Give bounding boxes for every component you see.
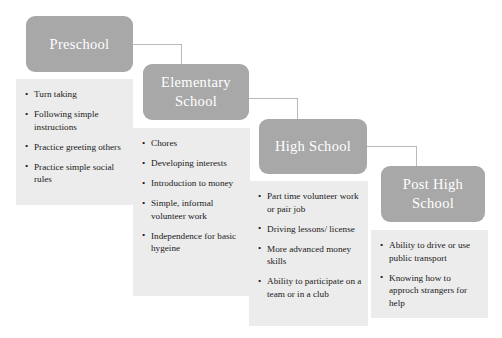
skill-text: Independence for basic hygeine (151, 231, 236, 254)
stage-body-high-school: •Part time volunteer work or pair job •D… (249, 181, 368, 326)
bullet-icon: • (25, 160, 28, 173)
skill-text: Introduction to money (151, 178, 233, 188)
stage-header-preschool[interactable]: Preschool (26, 16, 133, 72)
list-item: •Knowing how to approch strangers for he… (380, 272, 482, 310)
stage-header-high-school[interactable]: High School (259, 119, 367, 174)
stage-title-preschool: Preschool (50, 35, 110, 54)
stage-body-elementary-school: •Chores •Developing interests •Introduct… (133, 128, 250, 296)
connector-elementary-to-high-horizontal (248, 98, 298, 99)
skill-text: Practice simple social rules (34, 162, 114, 185)
stage-title-elementary-school: Elementary School (149, 73, 243, 110)
skill-text: Part time volunteer work or pair job (267, 191, 359, 214)
bullet-icon: • (258, 275, 261, 288)
list-item: •Introduction to money (142, 177, 244, 190)
bullet-icon: • (258, 242, 261, 255)
connector-high-to-post-high-horizontal (367, 146, 417, 147)
bullet-icon: • (142, 157, 145, 170)
skill-text: Simple, informal volunteer work (151, 198, 213, 221)
skill-text: Developing interests (151, 158, 227, 168)
connector-high-to-post-high-vertical (416, 146, 417, 166)
list-item: •Driving lessons/ license (258, 223, 362, 236)
skill-list-preschool: •Turn taking •Following simple instructi… (25, 88, 127, 186)
skill-list-high-school: •Part time volunteer work or pair job •D… (258, 190, 362, 300)
list-item: •Practice simple social rules (25, 161, 127, 186)
skill-text: Knowing how to approch strangers for hel… (389, 273, 467, 308)
life-skills-cascade-diagram: Preschool •Turn taking •Following simple… (0, 0, 502, 338)
list-item: •Chores (142, 137, 244, 150)
skill-text: Practice greeting others (34, 142, 121, 152)
list-item: •More advanced money skills (258, 243, 362, 268)
skill-text: Driving lessons/ license (267, 224, 355, 234)
connector-preschool-to-elementary-vertical (181, 44, 182, 64)
skill-text: Following simple instructions (34, 109, 99, 132)
bullet-icon: • (142, 197, 145, 210)
list-item: •Ability to participate on a team or in … (258, 275, 362, 300)
list-item: •Independence for basic hygeine (142, 230, 244, 255)
bullet-icon: • (25, 140, 28, 153)
bullet-icon: • (258, 190, 261, 203)
connector-elementary-to-high-vertical (297, 98, 298, 120)
connector-preschool-to-elementary-horizontal (132, 44, 182, 45)
bullet-icon: • (142, 229, 145, 242)
list-item: •Practice greeting others (25, 141, 127, 154)
list-item: •Turn taking (25, 88, 127, 101)
skill-text: Ability to drive or use public transport (389, 240, 470, 263)
bullet-icon: • (380, 239, 383, 252)
skill-text: More advanced money skills (267, 244, 351, 267)
list-item: •Following simple instructions (25, 108, 127, 133)
list-item: •Part time volunteer work or pair job (258, 190, 362, 215)
bullet-icon: • (25, 108, 28, 121)
bullet-icon: • (380, 271, 383, 284)
list-item: •Simple, informal volunteer work (142, 197, 244, 222)
bullet-icon: • (142, 177, 145, 190)
stage-header-elementary-school[interactable]: Elementary School (143, 64, 249, 120)
skill-list-post-high-school: •Ability to drive or use public transpor… (380, 239, 482, 309)
skill-text: Chores (151, 138, 177, 148)
stage-body-preschool: •Turn taking •Following simple instructi… (16, 79, 133, 205)
list-item: •Developing interests (142, 157, 244, 170)
skill-text: Ability to participate on a team or in a… (267, 276, 361, 299)
stage-title-high-school: High School (275, 137, 351, 156)
skill-list-elementary-school: •Chores •Developing interests •Introduct… (142, 137, 244, 255)
stage-body-post-high-school: •Ability to drive or use public transpor… (371, 230, 488, 318)
stage-title-post-high-school: Post High School (387, 175, 479, 212)
list-item: •Ability to drive or use public transpor… (380, 239, 482, 264)
skill-text: Turn taking (34, 89, 77, 99)
bullet-icon: • (25, 88, 28, 101)
bullet-icon: • (142, 137, 145, 150)
bullet-icon: • (258, 222, 261, 235)
stage-header-post-high-school[interactable]: Post High School (381, 166, 485, 222)
